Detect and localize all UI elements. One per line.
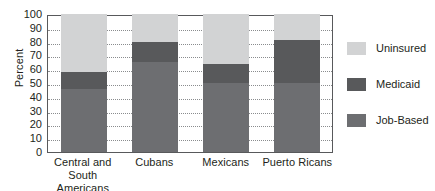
bar-segment-medicaid[interactable]: [132, 42, 178, 63]
bar-slot: [119, 16, 190, 152]
bar-series-container: [48, 16, 332, 152]
bar-segment-job-based[interactable]: [61, 89, 107, 152]
bar-segment-medicaid[interactable]: [61, 72, 107, 89]
plot-area: [47, 15, 333, 153]
stacked-bar[interactable]: [274, 14, 320, 152]
stacked-bar[interactable]: [132, 14, 178, 152]
y-axis-tick-label: 10: [8, 133, 42, 144]
bar-segment-job-based[interactable]: [132, 62, 178, 152]
y-axis-tick-label: 0: [8, 147, 42, 158]
bar-slot: [261, 16, 332, 152]
legend-item[interactable]: Medicaid: [347, 78, 435, 91]
bar-slot: [48, 16, 119, 152]
x-axis-tick-label: Mexicans: [190, 156, 262, 191]
y-axis-tick-label: 30: [8, 106, 42, 117]
legend-label: Medicaid: [376, 78, 420, 91]
y-axis-tick-labels: 1009080706050403020100: [8, 15, 42, 153]
stacked-bar[interactable]: [203, 14, 249, 152]
bar-segment-medicaid[interactable]: [274, 40, 320, 83]
chart-legend: UninsuredMedicaidJob-Based: [347, 42, 435, 150]
legend-item[interactable]: Job-Based: [347, 114, 435, 127]
legend-swatch-icon: [347, 42, 366, 55]
x-axis-tick-label: Puerto Ricans: [262, 156, 334, 191]
bar-segment-uninsured[interactable]: [132, 14, 178, 42]
legend-swatch-icon: [347, 114, 366, 127]
legend-swatch-icon: [347, 78, 366, 91]
bar-segment-uninsured[interactable]: [61, 14, 107, 72]
legend-item[interactable]: Uninsured: [347, 42, 435, 55]
bar-segment-medicaid[interactable]: [203, 64, 249, 83]
bar-segment-job-based[interactable]: [274, 83, 320, 152]
y-axis-tick-label: 40: [8, 92, 42, 103]
x-axis-tick-labels: Central and SouthAmericansCubansMexicans…: [47, 156, 333, 191]
y-axis-tick-label: 60: [8, 64, 42, 75]
legend-label: Uninsured: [376, 42, 426, 55]
y-axis-tick-label: 90: [8, 23, 42, 34]
y-axis-tick-label: 70: [8, 50, 42, 61]
stacked-bar-chart: Percent 1009080706050403020100 Central a…: [0, 0, 435, 191]
legend-label: Job-Based: [376, 114, 429, 127]
y-axis-tick-label: 100: [8, 9, 42, 20]
x-axis-tick-label: Central and SouthAmericans: [47, 156, 119, 191]
bar-segment-job-based[interactable]: [203, 83, 249, 152]
y-axis-tick-label: 50: [8, 78, 42, 89]
bar-segment-uninsured[interactable]: [203, 14, 249, 64]
y-axis-tick-label: 20: [8, 119, 42, 130]
x-axis-tick-label: Cubans: [119, 156, 191, 191]
y-axis-tick-label: 80: [8, 37, 42, 48]
stacked-bar[interactable]: [61, 14, 107, 152]
bar-slot: [190, 16, 261, 152]
bar-segment-uninsured[interactable]: [274, 14, 320, 40]
